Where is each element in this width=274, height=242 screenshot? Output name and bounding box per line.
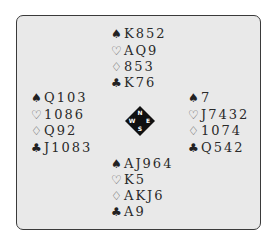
- west-clubs: ♣J1083: [31, 140, 92, 156]
- heart-icon: ♡: [31, 107, 44, 123]
- spade-icon: ♠: [111, 156, 124, 172]
- south-hearts: ♡K5: [111, 172, 146, 188]
- south-diamonds: ♢AKJ6: [111, 188, 165, 204]
- spade-icon: ♠: [31, 90, 44, 106]
- north-spades: ♠K852: [111, 26, 167, 42]
- diamond-icon: ♢: [188, 123, 201, 139]
- east-clubs: ♣Q542: [188, 140, 244, 156]
- south-clubs: ♣A9: [111, 204, 146, 220]
- north-hearts: ♡AQ9: [111, 43, 158, 59]
- compass-east: E: [146, 117, 150, 124]
- club-icon: ♣: [111, 75, 124, 91]
- west-hearts: ♡1086: [31, 107, 85, 123]
- compass-west: W: [129, 117, 136, 124]
- compass-rose-icon: N W E S: [125, 106, 155, 136]
- south-spades: ♠AJ964: [111, 156, 173, 172]
- heart-icon: ♡: [111, 43, 124, 59]
- heart-icon: ♡: [188, 107, 201, 123]
- north-diamonds: ♢853: [111, 59, 155, 75]
- club-icon: ♣: [31, 140, 44, 156]
- diamond-icon: ♢: [111, 59, 124, 75]
- east-diamonds: ♢1074: [188, 123, 242, 139]
- club-icon: ♣: [111, 204, 124, 220]
- east-spades: ♠7: [188, 90, 211, 106]
- spade-icon: ♠: [111, 26, 124, 42]
- compass-north: N: [137, 109, 142, 116]
- club-icon: ♣: [188, 140, 201, 156]
- diamond-icon: ♢: [31, 123, 44, 139]
- diamond-icon: ♢: [111, 188, 124, 204]
- west-diamonds: ♢Q92: [31, 123, 77, 139]
- spade-icon: ♠: [188, 90, 201, 106]
- east-hearts: ♡J7432: [188, 107, 249, 123]
- north-clubs: ♣K76: [111, 75, 156, 91]
- heart-icon: ♡: [111, 172, 124, 188]
- west-spades: ♠Q103: [31, 90, 87, 106]
- compass-south: S: [138, 125, 142, 132]
